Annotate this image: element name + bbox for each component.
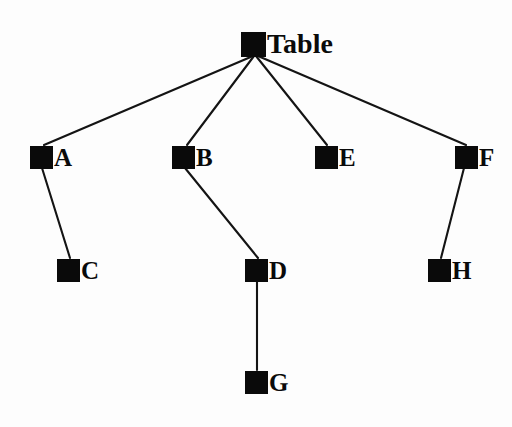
tree-node-h[interactable]: H: [428, 258, 471, 283]
tree-node-table[interactable]: Table: [241, 30, 333, 58]
node-square-icon: [241, 32, 266, 57]
tree-node-label: A: [54, 145, 72, 170]
tree-edge-a-to-c: [42, 168, 70, 258]
node-square-icon: [57, 259, 80, 282]
node-square-icon: [30, 146, 53, 169]
tree-edge-layer: [0, 0, 512, 427]
tree-node-label: B: [196, 145, 213, 170]
tree-node-label: H: [452, 258, 471, 283]
tree-edge-f-to-h: [441, 168, 464, 258]
tree-node-a[interactable]: A: [30, 145, 72, 170]
tree-diagram-canvas: TableABEFCDHG: [0, 0, 512, 427]
tree-node-label: G: [269, 370, 288, 395]
tree-node-g[interactable]: G: [245, 370, 288, 395]
tree-node-label: D: [269, 258, 287, 283]
node-square-icon: [245, 371, 268, 394]
tree-edge-b-to-d: [185, 168, 258, 258]
tree-node-b[interactable]: B: [172, 145, 213, 170]
tree-edge-table-to-e: [256, 56, 327, 145]
node-square-icon: [428, 259, 451, 282]
tree-node-label: Table: [267, 30, 333, 58]
tree-edge-table-to-b: [187, 56, 254, 145]
node-square-icon: [455, 146, 478, 169]
tree-node-label: F: [479, 145, 494, 170]
tree-node-f[interactable]: F: [455, 145, 494, 170]
tree-node-label: C: [81, 258, 99, 283]
tree-edge-table-to-f: [258, 56, 466, 145]
node-square-icon: [245, 259, 268, 282]
tree-node-d[interactable]: D: [245, 258, 287, 283]
node-square-icon: [315, 146, 338, 169]
tree-node-e[interactable]: E: [315, 145, 356, 170]
tree-edge-table-to-a: [44, 56, 253, 145]
tree-node-c[interactable]: C: [57, 258, 99, 283]
tree-node-label: E: [339, 145, 356, 170]
node-square-icon: [172, 146, 195, 169]
